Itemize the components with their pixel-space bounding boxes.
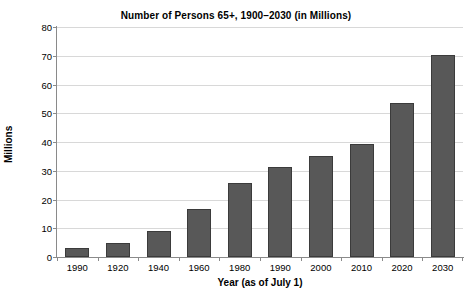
bar bbox=[431, 55, 455, 257]
x-axis-tick-mark bbox=[462, 257, 463, 261]
x-axis-title: Year (as of July 1) bbox=[57, 277, 463, 288]
x-axis-tick-mark bbox=[341, 257, 342, 261]
bar bbox=[187, 209, 211, 257]
bar bbox=[106, 243, 130, 257]
x-axis-tick-mark bbox=[301, 257, 302, 261]
chart-title: Number of Persons 65+, 1900–2030 (in Mil… bbox=[0, 10, 472, 21]
x-axis-tick-mark bbox=[382, 257, 383, 261]
x-axis-tick-labels: 1990192019401960198019902000201020202030 bbox=[57, 262, 463, 276]
y-axis-tick-label: 20 bbox=[30, 194, 52, 205]
x-axis-tick-mark bbox=[260, 257, 261, 261]
bar bbox=[147, 231, 171, 257]
x-axis-tick-label: 1990 bbox=[270, 262, 291, 273]
bar-chart: Number of Persons 65+, 1900–2030 (in Mil… bbox=[0, 0, 472, 297]
y-axis-tick-mark bbox=[53, 228, 57, 229]
x-axis-tick-label: 1990 bbox=[67, 262, 88, 273]
y-axis-tick-mark bbox=[53, 113, 57, 114]
x-axis-tick-label: 2020 bbox=[392, 262, 413, 273]
y-axis-tick-mark bbox=[53, 142, 57, 143]
x-axis-tick-mark bbox=[98, 257, 99, 261]
y-axis-tick-label: 40 bbox=[30, 137, 52, 148]
bar-series bbox=[57, 27, 463, 257]
bar bbox=[309, 156, 333, 257]
y-axis-tick-label: 80 bbox=[30, 22, 52, 33]
y-axis-tick-label: 10 bbox=[30, 223, 52, 234]
x-axis-tick-label: 2010 bbox=[351, 262, 372, 273]
x-axis-tick-mark bbox=[57, 257, 58, 261]
bar bbox=[65, 248, 89, 257]
x-axis-tick-mark bbox=[219, 257, 220, 261]
bar bbox=[390, 103, 414, 257]
bar bbox=[228, 183, 252, 257]
x-axis-tick-mark bbox=[138, 257, 139, 261]
y-axis-tick-label: 50 bbox=[30, 108, 52, 119]
x-axis-tick-label: 1920 bbox=[107, 262, 128, 273]
y-axis-tick-label: 60 bbox=[30, 79, 52, 90]
y-axis-tick-mark bbox=[53, 171, 57, 172]
y-axis-tick-labels: 01020304050607080 bbox=[26, 27, 52, 257]
x-axis-tick-mark bbox=[422, 257, 423, 261]
x-axis-tick-label: 2000 bbox=[310, 262, 331, 273]
y-axis-tick-mark bbox=[53, 257, 57, 258]
bar bbox=[268, 167, 292, 257]
y-axis-tick-mark bbox=[53, 85, 57, 86]
x-axis-tick-label: 1980 bbox=[229, 262, 250, 273]
x-axis-tick-label: 1960 bbox=[189, 262, 210, 273]
y-axis-tick-mark bbox=[53, 56, 57, 57]
y-axis-tick-mark bbox=[53, 27, 57, 28]
y-axis-tick-label: 30 bbox=[30, 165, 52, 176]
y-axis-tick-label: 0 bbox=[30, 252, 52, 263]
y-axis-tick-label: 70 bbox=[30, 50, 52, 61]
x-axis-tick-label: 2030 bbox=[432, 262, 453, 273]
x-axis-tick-mark bbox=[179, 257, 180, 261]
bar bbox=[350, 144, 374, 257]
x-axis-tick-label: 1940 bbox=[148, 262, 169, 273]
y-axis-title: Millions bbox=[2, 104, 16, 184]
y-axis-tick-mark bbox=[53, 200, 57, 201]
